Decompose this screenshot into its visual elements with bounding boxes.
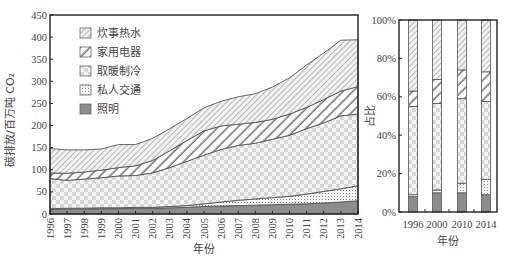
bar-segment-私人交通 [458, 183, 467, 193]
legend-label: 取暖制冷 [97, 65, 141, 78]
bar-segment-家用电器 [409, 91, 418, 106]
y-tick-label: 200 [31, 120, 47, 131]
bar-segment-私人交通 [433, 190, 442, 193]
legend-swatch [80, 66, 91, 76]
legend-label: 家用电器 [97, 45, 141, 59]
x-tick-label: 2010 [452, 219, 473, 230]
bar-segment-炊事热水 [458, 20, 467, 70]
bar-segment-取暖制冷 [433, 104, 442, 190]
y-tick-label: 450 [31, 10, 47, 21]
x-tick-label: 2002 [147, 218, 158, 239]
y-tick-label: 80% [377, 53, 397, 64]
x-tick-label: 2003 [164, 218, 175, 239]
x-tick-label: 2004 [181, 217, 192, 239]
y-tick-label: 150 [31, 142, 47, 153]
x-tick-label: 1997 [62, 218, 73, 239]
bar-segment-家用电器 [433, 80, 442, 104]
bar-segment-取暖制冷 [482, 102, 491, 180]
right-x-axis-title: 年份 [437, 234, 459, 248]
y-tick-label: 100% [372, 15, 397, 26]
legend-swatch [80, 104, 91, 114]
legend-label: 照明 [97, 103, 119, 116]
x-tick-label: 1996 [403, 219, 424, 230]
y-tick-label: 100 [31, 164, 47, 175]
bar-segment-照明 [482, 195, 491, 212]
bar-segment-家用电器 [482, 72, 491, 102]
y-tick-label: 20% [377, 168, 397, 179]
x-tick-label: 2014 [353, 217, 364, 239]
legend-swatch [80, 85, 91, 95]
y-tick-label: 50 [37, 186, 48, 197]
legend-label: 私人交通 [97, 83, 141, 97]
bar-segment-取暖制冷 [409, 106, 418, 194]
y-tick-label: 300 [31, 76, 47, 87]
x-tick-label: 2011 [301, 218, 312, 239]
y-tick-label: 0% [382, 207, 396, 218]
x-tick-label: 2005 [199, 218, 210, 239]
y-tick-label: 0 [42, 209, 47, 220]
bar-segment-私人交通 [482, 179, 491, 194]
y-tick-label: 350 [31, 54, 47, 65]
bar-segment-炊事热水 [433, 20, 442, 80]
x-tick-label: 1998 [79, 218, 90, 239]
bar-segment-照明 [433, 193, 442, 212]
x-tick-label: 2007 [233, 218, 244, 239]
y-tick-label: 40% [377, 130, 397, 141]
y-tick-label: 250 [31, 98, 47, 109]
legend-swatch [80, 28, 91, 38]
y-tick-label: 60% [377, 91, 397, 102]
legend: 炊事热水家用电器取暖制冷私人交通照明 [80, 27, 141, 116]
right-y-axis-title: 占比 [363, 105, 377, 127]
chart-canvas: 0501001502002503003504004501996199719981… [0, 0, 508, 261]
x-tick-label: 2006 [216, 218, 227, 239]
x-tick-label: 2012 [318, 218, 329, 239]
x-tick-label: 2014 [476, 219, 498, 230]
right-axes: 0%20%40%60%80%100%1996200020102014年份占比 [363, 15, 497, 249]
x-tick-label: 2013 [335, 218, 346, 239]
x-tick-label: 1999 [96, 218, 107, 239]
y-tick-label: 400 [31, 32, 47, 43]
legend-swatch [80, 47, 91, 57]
x-tick-label: 2008 [250, 218, 261, 239]
bar-segment-家用电器 [458, 70, 467, 99]
left-y-axis-title: 碳排放/百万吨 CO₂ [3, 73, 17, 167]
bar-segment-炊事热水 [482, 20, 491, 72]
x-tick-label: 2000 [113, 218, 124, 239]
x-tick-label: 2001 [130, 218, 141, 239]
x-tick-label: 2010 [284, 218, 295, 239]
left-x-axis-title: 年份 [193, 242, 215, 256]
x-tick-label: 2000 [427, 219, 448, 230]
x-tick-label: 1996 [45, 218, 56, 239]
bar-segment-照明 [458, 193, 467, 212]
bar-segment-炊事热水 [409, 20, 418, 91]
x-tick-label: 2009 [267, 218, 278, 239]
bar-segment-照明 [409, 197, 418, 212]
bar-segment-取暖制冷 [458, 99, 467, 183]
right-stacked-bars [409, 20, 491, 212]
legend-label: 炊事热水 [97, 27, 141, 40]
